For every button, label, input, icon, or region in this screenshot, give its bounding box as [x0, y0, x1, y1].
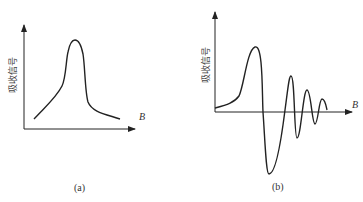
- panel-a-absorption-curve: [34, 40, 120, 119]
- diagram-canvas: B 吸收信号 (a) B 吸收信号 (b): [0, 0, 363, 202]
- panel-a-x-label: B: [139, 111, 145, 122]
- panel-a-y-label: 吸收信号: [7, 57, 18, 93]
- panel-b: B 吸收信号 (b): [200, 12, 358, 193]
- panel-b-oscillation-curve: [215, 47, 327, 174]
- panel-b-y-label: 吸收信号: [200, 47, 211, 83]
- panel-a: B 吸收信号 (a): [7, 25, 145, 194]
- panel-b-caption: (b): [272, 181, 284, 193]
- panel-b-x-label: B: [352, 99, 358, 110]
- panel-a-caption: (a): [74, 182, 85, 194]
- figure: B 吸收信号 (a) B 吸收信号 (b): [0, 0, 363, 202]
